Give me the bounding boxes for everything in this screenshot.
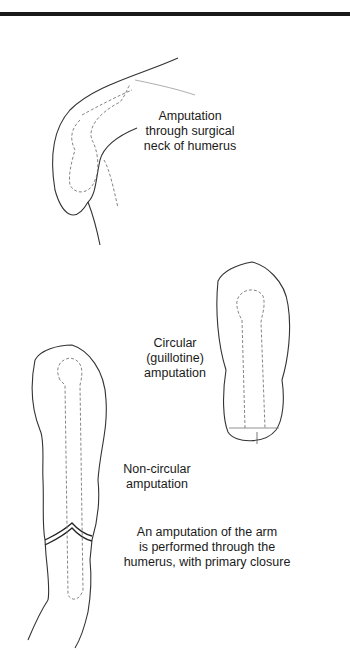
arm-amputation-description: An amputation of the arm is performed th…: [103, 525, 311, 570]
circular-stump-drawing: [217, 262, 290, 444]
noncircular-flap-marks: [45, 523, 92, 545]
shoulder-bone-outline: [69, 85, 132, 208]
circular-amputation-label: Circular (guillotine) amputation: [135, 336, 215, 381]
noncircular-bone-outline: [58, 358, 83, 599]
circular-bone-outline: [237, 290, 265, 428]
noncircular-amputation-label: Non-circular amputation: [112, 462, 202, 492]
shoulder-amputation-label: Amputation through surgical neck of hume…: [130, 109, 250, 154]
noncircular-arm-drawing: [28, 345, 106, 648]
